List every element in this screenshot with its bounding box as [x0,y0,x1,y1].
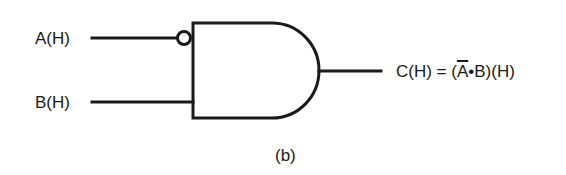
and-gate-body [193,23,319,118]
negated-term: A [457,62,468,81]
output-prefix: C(H) = ( [396,62,457,81]
input-a-label: A(H) [35,30,70,47]
output-term: B [474,62,485,81]
figure-caption: (b) [275,147,296,164]
inversion-bubble [178,32,191,45]
output-expression: C(H) = (A•B)(H) [396,63,515,80]
output-suffix: )(H) [486,62,515,81]
input-b-label: B(H) [35,94,70,111]
